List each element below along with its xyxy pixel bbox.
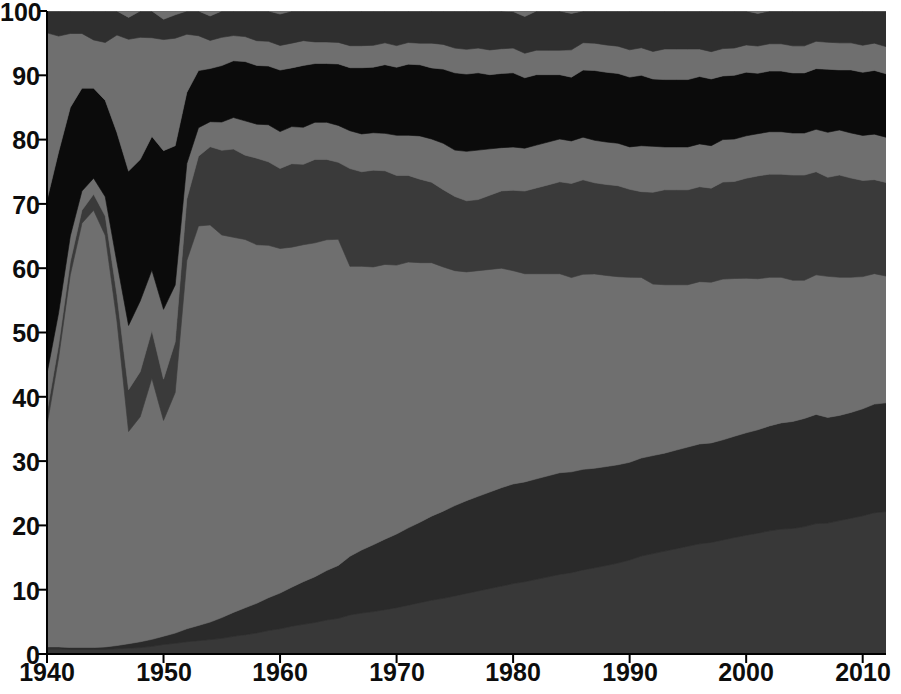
stacked-area-chart: 100 90 80 70 60 50 40 30 20 10 0 1940 19… (0, 0, 901, 694)
chart-canvas (0, 0, 901, 694)
x-tick-label-1970: 1970 (361, 660, 433, 685)
x-tick-label-1940: 1940 (11, 660, 83, 685)
x-tick-label-1960: 1960 (244, 660, 316, 685)
y-tick-label-90: 90 (0, 64, 40, 89)
y-tick-label-30: 30 (0, 450, 40, 475)
y-tick-label-50: 50 (0, 321, 40, 346)
y-tick-label-60: 60 (0, 257, 40, 282)
x-tick-label-1980: 1980 (477, 660, 549, 685)
x-tick-label-2010: 2010 (827, 660, 899, 685)
y-tick-label-70: 70 (0, 193, 40, 218)
x-tick-label-1990: 1990 (594, 660, 666, 685)
y-tick-label-80: 80 (0, 128, 40, 153)
y-tick-label-20: 20 (0, 514, 40, 539)
x-tick-label-1950: 1950 (128, 660, 200, 685)
y-tick-label-40: 40 (0, 386, 40, 411)
y-tick-label-100: 100 (0, 0, 40, 25)
stacked-area-group (47, 11, 886, 654)
y-tick-label-10: 10 (0, 579, 40, 604)
x-tick-label-2000: 2000 (710, 660, 782, 685)
